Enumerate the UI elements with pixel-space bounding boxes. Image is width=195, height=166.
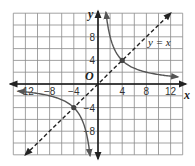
x-tick-label: 12 [165,86,177,97]
intersection-point [71,105,76,110]
y-tick-label: −4 [84,103,96,114]
x-tick-label: 4 [119,86,125,97]
origin-label: O [85,69,94,83]
axes [10,11,185,159]
x-tick-label: 8 [144,86,150,97]
y-tick-label: 4 [89,55,95,66]
hyperbola-branch-q3 [18,91,90,155]
x-axis-label: x [183,88,190,102]
y-tick-label: 8 [89,32,95,43]
x-tick-label: −4 [68,86,80,97]
intersection-point [120,58,125,63]
y-axis-label: y [86,7,94,21]
graph: −12−8−4481284−4−8 x y O y = x [0,0,195,166]
line-equation-label: y = x [147,36,171,48]
